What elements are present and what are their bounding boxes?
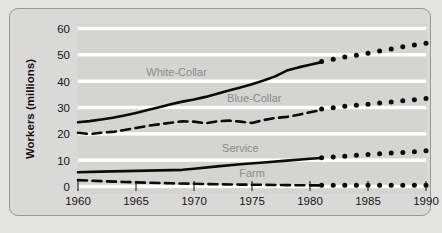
projection-dot	[424, 148, 429, 153]
projection-dot	[400, 183, 405, 188]
projection-dot	[424, 96, 429, 101]
projection-dot	[342, 154, 347, 159]
series-label-white-collar: White-Collar	[146, 66, 207, 78]
projection-dot	[319, 107, 324, 112]
gridline-30	[78, 106, 426, 109]
projection-dot	[400, 98, 405, 103]
projection-dot	[319, 59, 324, 64]
projection-dot	[366, 102, 371, 107]
gridline-10	[78, 158, 426, 161]
chart-root: 0102030405060Workers (millions)196019651…	[0, 0, 442, 233]
projection-dot	[342, 104, 347, 109]
projection-dot	[354, 53, 359, 58]
series-label-blue-collar: Blue-Collar	[227, 92, 282, 104]
gridline-20	[78, 132, 426, 135]
projection-dot	[366, 51, 371, 56]
projection-dot	[331, 154, 336, 159]
projection-dot	[354, 183, 359, 188]
projection-dot	[389, 150, 394, 155]
projection-dot	[400, 150, 405, 155]
y-tick-label-10: 10	[57, 155, 70, 167]
y-tick-label-60: 60	[57, 23, 70, 35]
projection-dot	[366, 152, 371, 157]
y-tick-label-0: 0	[64, 181, 70, 193]
y-tick-label-30: 30	[57, 102, 70, 114]
y-tick-label-50: 50	[57, 49, 70, 61]
projection-dot	[389, 183, 394, 188]
projection-dot	[377, 183, 382, 188]
gridline-60	[78, 27, 426, 30]
projection-dot	[412, 183, 417, 188]
projection-dot	[412, 149, 417, 154]
projection-dot	[412, 97, 417, 102]
projection-dot	[400, 44, 405, 49]
projection-dot	[331, 183, 336, 188]
x-tick-label-1960: 1960	[65, 195, 91, 207]
gridline-50	[78, 53, 426, 56]
projection-dot	[342, 55, 347, 60]
y-tick-label-40: 40	[57, 76, 70, 88]
x-tick-label-1975: 1975	[239, 195, 265, 207]
projection-dot	[366, 183, 371, 188]
projection-dot	[424, 183, 429, 188]
series-label-farm: Farm	[239, 167, 265, 179]
x-tick-label-1965: 1965	[123, 195, 149, 207]
chart-canvas: 0102030405060Workers (millions)196019651…	[0, 0, 442, 233]
projection-dot	[342, 183, 347, 188]
projection-dot	[354, 153, 359, 158]
projection-dot	[354, 103, 359, 108]
gridline-40	[78, 79, 426, 82]
projection-dot	[377, 100, 382, 105]
projection-dot	[389, 99, 394, 104]
x-tick-label-1990: 1990	[413, 195, 439, 207]
projection-dot	[424, 41, 429, 46]
projection-dot	[377, 151, 382, 156]
projection-dot	[377, 49, 382, 54]
y-axis-title: Workers (millions)	[24, 59, 36, 159]
x-tick-label-1970: 1970	[181, 195, 207, 207]
projection-dot	[331, 105, 336, 110]
x-tick-label-1980: 1980	[297, 195, 323, 207]
y-tick-label-20: 20	[57, 128, 70, 140]
projection-dot	[319, 183, 324, 188]
projection-dot	[412, 43, 417, 48]
projection-dot	[319, 155, 324, 160]
series-label-service: Service	[222, 142, 259, 154]
projection-dot	[389, 46, 394, 51]
x-tick-label-1985: 1985	[355, 195, 381, 207]
line-chart: 0102030405060Workers (millions)196019651…	[0, 0, 442, 233]
projection-dot	[331, 57, 336, 62]
